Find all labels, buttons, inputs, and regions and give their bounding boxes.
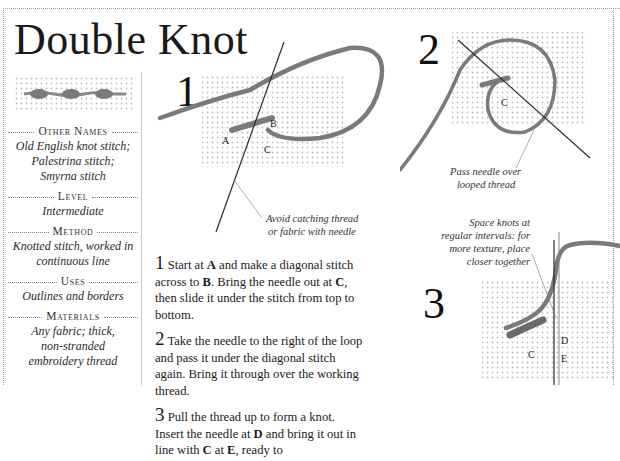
column-divider xyxy=(141,72,142,385)
sidebar-section-materials: Materials Any fabric; thick, non-strande… xyxy=(8,309,138,369)
svg-text:D: D xyxy=(561,335,568,346)
section-line: non-stranded xyxy=(8,339,138,354)
section-heading: Other Names xyxy=(38,124,107,139)
svg-text:C: C xyxy=(501,97,508,108)
section-heading: Level xyxy=(58,189,88,204)
step-1-callout: Avoid catching thread or fabric with nee… xyxy=(266,212,358,238)
sidebar-section-level: Level Intermediate xyxy=(8,189,138,219)
instructions-text: 1 Start at A and make a diagonal stitch … xyxy=(155,253,365,461)
svg-text:C: C xyxy=(528,349,535,360)
section-heading: Materials xyxy=(46,309,99,324)
instruction-step-2: 2 Take the needle to the right of the lo… xyxy=(155,329,365,399)
svg-text:C: C xyxy=(264,144,271,155)
sidebar-section-other-names: Other Names Old English knot stitch; Pal… xyxy=(8,124,138,184)
svg-text:B: B xyxy=(270,118,277,129)
step-3-callout: Space knots at regular intervals: for mo… xyxy=(440,216,530,268)
section-line: Palestrina stitch; xyxy=(8,154,138,169)
section-line: Smyrna stitch xyxy=(8,169,138,184)
section-line: Any fabric; thick, xyxy=(8,324,138,339)
page-border-left xyxy=(3,8,4,385)
instruction-step-3: 3 Pull the thread up to form a knot. Ins… xyxy=(155,405,365,459)
stitch-sample-image xyxy=(14,76,134,112)
section-line: Outlines and borders xyxy=(8,289,138,304)
step-2-callout: Pass needle over looped thread xyxy=(450,165,521,191)
section-line: embroidery thread xyxy=(8,354,138,369)
section-line: continuous line xyxy=(8,254,138,269)
sidebar-section-uses: Uses Outlines and borders xyxy=(8,274,138,304)
instruction-step-1: 1 Start at A and make a diagonal stitch … xyxy=(155,253,365,323)
section-heading: Uses xyxy=(61,274,86,289)
sidebar-section-method: Method Knotted stitch, worked in continu… xyxy=(8,224,138,269)
section-line: Old English knot stitch; xyxy=(8,139,138,154)
step-1-illustration: A B C xyxy=(150,20,400,240)
section-heading: Method xyxy=(53,224,94,239)
svg-text:E: E xyxy=(561,353,567,364)
svg-text:A: A xyxy=(222,135,230,146)
stitch-info-sidebar: Other Names Old English knot stitch; Pal… xyxy=(8,124,138,374)
section-line: Knotted stitch, worked in xyxy=(8,239,138,254)
section-line: Intermediate xyxy=(8,204,138,219)
